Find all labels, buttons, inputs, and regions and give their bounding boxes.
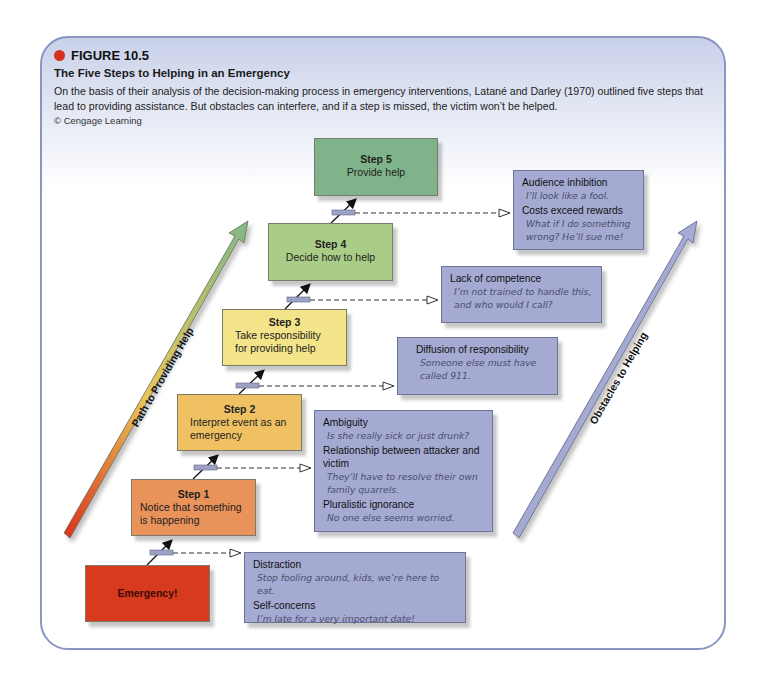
step-3-box: Step 3 Take responsibility for providing…	[222, 309, 347, 366]
step-3-number: Step 3	[223, 316, 346, 329]
obstacle-quote: Stop fooling around, kids, we’re here to…	[253, 571, 457, 597]
step-4-number: Step 4	[269, 238, 392, 251]
obstacle-box-step-1: Distraction Stop fooling around, kids, w…	[244, 552, 466, 623]
step-3-label: Take responsibility for providing help	[223, 329, 346, 355]
step-2-box: Step 2 Interpret event as an emergency	[177, 394, 302, 451]
obstacle-quote: No one else seems worried.	[323, 511, 484, 524]
obstacle-heading: Diffusion of responsibility	[416, 343, 549, 356]
obstacle-quote: I’ll look like a fool.	[522, 189, 635, 202]
emergency-label: Emergency!	[117, 587, 177, 600]
obstacle-quote: I’m not trained to handle this, and who …	[450, 285, 593, 311]
obstacle-quote: They’ll have to resolve their own family…	[323, 470, 484, 496]
obstacle-quote: Someone else must have called 911.	[416, 356, 549, 382]
obstacle-quote: What if I do something wrong? He’ll sue …	[522, 217, 635, 243]
obstacle-heading: Audience inhibition	[522, 176, 635, 189]
obstacle-heading: Lack of competence	[450, 272, 593, 285]
obstacle-quote: I’m late for a very important date!	[253, 612, 457, 625]
step-4-box: Step 4 Decide how to help	[268, 223, 393, 281]
emergency-box: Emergency!	[85, 565, 210, 622]
step-1-label: Notice that something is happening	[132, 501, 255, 527]
step-2-number: Step 2	[178, 403, 301, 416]
obstacle-box-step-4: Lack of competence I’m not trained to ha…	[441, 266, 602, 323]
step-2-label: Interpret event as an emergency	[178, 416, 301, 442]
step-5-number: Step 5	[315, 153, 437, 166]
obstacle-heading: Relationship between attacker and victim	[323, 444, 484, 470]
step-5-box: Step 5 Provide help	[314, 138, 438, 196]
obstacle-heading: Ambiguity	[323, 416, 484, 429]
step-4-label: Decide how to help	[269, 251, 392, 264]
obstacle-box-step-5: Audience inhibition I’ll look like a foo…	[513, 170, 644, 250]
step-5-label: Provide help	[315, 166, 437, 179]
obstacle-quote: Is she really sick or just drunk?	[323, 429, 484, 442]
obstacle-box-step-3: Diffusion of responsibility Someone else…	[397, 337, 558, 395]
step-1-box: Step 1 Notice that something is happenin…	[131, 479, 256, 536]
obstacle-heading: Distraction	[253, 558, 457, 571]
obstacle-heading: Costs exceed rewards	[522, 204, 635, 217]
obstacle-heading: Self-concerns	[253, 599, 457, 612]
obstacle-box-step-2: Ambiguity Is she really sick or just dru…	[314, 410, 493, 532]
obstacle-heading: Pluralistic ignorance	[323, 498, 484, 511]
step-1-number: Step 1	[132, 488, 255, 501]
